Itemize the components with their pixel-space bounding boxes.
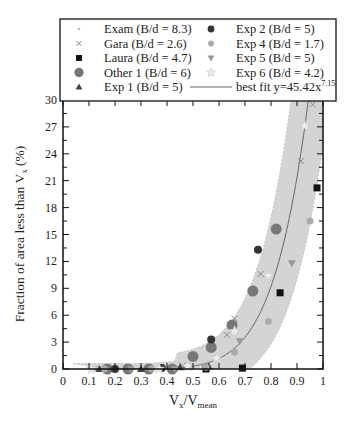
legend-entry: best fit y=45.42x7.15: [236, 79, 335, 94]
legend-entry: Exp 4 (B/d = 1.7): [236, 37, 324, 51]
y-tick-label: 12: [45, 254, 57, 268]
y-tick-label: 27: [45, 120, 57, 134]
x-tick-label: 0.9: [290, 374, 305, 388]
legend-entry: Other 1 (B/d = 6): [104, 66, 191, 80]
x-tick-label: 0.7: [238, 374, 253, 388]
x-tick-label: 1: [320, 374, 326, 388]
legend-entry: Exp 6 (B/d = 4.2): [236, 66, 324, 80]
legend: Exam (B/d = 8.3)Gara (B/d = 2.6)Laura (B…: [60, 19, 336, 101]
x-tick-label: 0.4: [160, 374, 175, 388]
legend-entry: Gara (B/d = 2.6): [104, 37, 187, 51]
y-tick-label: 30: [45, 93, 57, 107]
x-tick-label: 0: [60, 374, 66, 388]
x-tick-label: 0.8: [264, 374, 279, 388]
x-tick-label: 0.5: [186, 374, 201, 388]
y-axis-label: Fraction of area less than Vx (%): [12, 146, 29, 323]
x-axis-label: Vx/Vmean: [169, 393, 218, 410]
x-tick-label: 0.6: [212, 374, 227, 388]
y-tick-label: 3: [51, 335, 57, 349]
x-tick-label: 0.2: [108, 374, 123, 388]
legend-entry: Exp 2 (B/d = 5): [236, 22, 315, 36]
y-tick-label: 24: [45, 147, 57, 161]
y-tick-label: 15: [45, 228, 57, 242]
y-tick-label: 6: [51, 308, 57, 322]
y-tick-label: 9: [51, 281, 57, 295]
legend-entry: Exam (B/d = 8.3): [104, 22, 192, 36]
y-tick-label: 21: [45, 174, 57, 188]
x-tick-label: 0.3: [134, 374, 149, 388]
legend-entry: Laura (B/d = 4.7): [104, 51, 192, 65]
y-tick-label: 0: [51, 362, 57, 376]
legend-entry: Exp 1 (B/d = 5): [104, 80, 183, 94]
x-tick-label: 0.1: [82, 374, 97, 388]
y-tick-label: 18: [45, 201, 57, 215]
chart: 00.10.20.30.40.50.60.70.80.9103691215182…: [0, 0, 351, 422]
legend-entry: Exp 5 (B/d = 5): [236, 51, 315, 65]
